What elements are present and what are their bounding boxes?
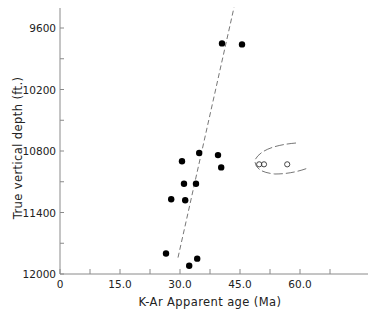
data-point-filled (219, 40, 225, 46)
data-point-filled (181, 181, 187, 187)
data-point-filled (179, 158, 185, 164)
y-tick-label: 9600 (29, 22, 56, 34)
x-tick-label: 15.0 (108, 278, 131, 290)
data-points (163, 40, 290, 269)
x-tick-label: 0 (57, 278, 64, 290)
scatter-chart: 960010200108001140012000 015.030.045.060… (0, 0, 379, 324)
data-point-filled (182, 197, 188, 203)
axes (60, 8, 368, 274)
y-tick-label: 11400 (23, 207, 56, 219)
data-point-filled (168, 196, 174, 202)
data-point-filled (239, 41, 245, 47)
data-point-filled (186, 263, 192, 269)
data-point-open (285, 162, 290, 167)
y-tick-label: 10800 (23, 145, 56, 157)
y-axis-title: True vertical depth (ft.) (11, 77, 25, 221)
outlier-ellipse (255, 143, 308, 174)
data-point-filled (193, 181, 199, 187)
data-point-filled (163, 250, 169, 256)
data-point-filled (194, 255, 200, 261)
trend-line (178, 8, 234, 258)
data-point-filled (196, 150, 202, 156)
x-tick-label: 60.0 (288, 278, 311, 290)
x-tick-label: 30.0 (168, 278, 191, 290)
data-point-filled (218, 164, 224, 170)
data-point-filled (215, 152, 221, 158)
y-tick-label: 12000 (23, 268, 56, 280)
x-axis-title: K-Ar Apparent age (Ma) (139, 295, 282, 309)
y-tick-label: 10200 (23, 84, 56, 96)
x-ticks: 015.030.045.060.0 (57, 269, 330, 290)
x-tick-label: 45.0 (228, 278, 251, 290)
y-ticks: 960010200108001140012000 (23, 22, 64, 280)
